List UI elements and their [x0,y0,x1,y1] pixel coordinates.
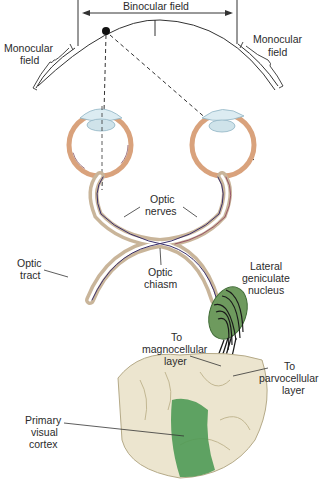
monocular-field-right-line2: field [268,46,287,58]
parvocellular-label-line3: layer [282,384,305,396]
optic-chiasm-label-line2: chiasm [144,278,177,290]
visual-cortex-label-line2: visual [31,426,58,438]
optic-nerves-label-line1: Optic [150,193,175,205]
left-eye [69,106,131,176]
occipital-lobe [118,353,267,478]
optic-nerves-label-line2: nerves [145,205,177,217]
optic-tract-label-line1: Optic [17,257,42,269]
visual-cortex-label-line1: Primary [25,414,61,426]
right-eye [192,109,254,176]
magnocellular-label-line1: To [171,331,182,343]
magnocellular-label-line3: layer [164,355,187,367]
visual-field-curve [38,20,275,90]
parvocellular-label-line1: To [284,360,295,372]
visual-cortex-label-line3: cortex [29,438,58,450]
optic-tract-label-line2: tract [20,269,40,281]
magnocellular-label-line2: magnocellular [142,343,207,355]
lgn-label-line3: nucleus [248,284,284,296]
monocular-field-left-line1: Monocular [4,42,53,54]
fixation-point [102,27,110,35]
optic-chiasm-label-line1: Optic [148,266,173,278]
visual-pathway-diagram: Binocular field Monocular field Monocula… [0,0,326,484]
monocular-field-left-line2: field [20,54,39,66]
lgn-label-line2: geniculate [242,272,290,284]
diagram-artwork [0,0,326,484]
parvocellular-label-line2: parvocellular [259,372,319,384]
monocular-field-right-line1: Monocular [253,33,302,45]
lgn-label-line1: Lateral [250,260,282,272]
binocular-field-label: Binocular field [123,0,189,12]
